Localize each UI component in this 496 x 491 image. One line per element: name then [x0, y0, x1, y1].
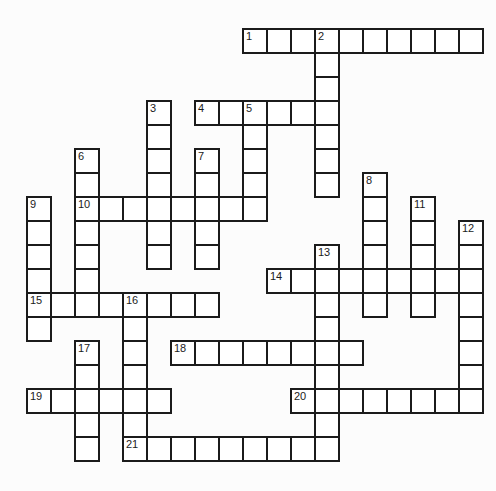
- grid-cell[interactable]: [458, 340, 484, 366]
- grid-cell[interactable]: 4: [194, 100, 220, 126]
- grid-cell[interactable]: [314, 52, 340, 78]
- grid-cell[interactable]: [122, 340, 148, 366]
- grid-cell[interactable]: [410, 268, 436, 294]
- grid-cell[interactable]: [314, 316, 340, 342]
- grid-cell[interactable]: [122, 412, 148, 438]
- grid-cell[interactable]: [218, 100, 244, 126]
- grid-cell[interactable]: [242, 196, 268, 222]
- grid-cell[interactable]: [50, 292, 76, 318]
- grid-cell[interactable]: [410, 292, 436, 318]
- grid-cell[interactable]: [314, 340, 340, 366]
- grid-cell[interactable]: [122, 196, 148, 222]
- grid-cell[interactable]: [458, 244, 484, 270]
- grid-cell[interactable]: 14: [266, 268, 292, 294]
- grid-cell[interactable]: [290, 100, 316, 126]
- grid-cell[interactable]: [146, 220, 172, 246]
- grid-cell[interactable]: 16: [122, 292, 148, 318]
- grid-cell[interactable]: [146, 172, 172, 198]
- grid-cell[interactable]: [74, 388, 100, 414]
- grid-cell[interactable]: [74, 364, 100, 390]
- grid-cell[interactable]: [314, 412, 340, 438]
- grid-cell[interactable]: [122, 388, 148, 414]
- grid-cell[interactable]: [194, 436, 220, 462]
- grid-cell[interactable]: [146, 148, 172, 174]
- grid-cell[interactable]: [362, 28, 388, 54]
- grid-cell[interactable]: 13: [314, 244, 340, 270]
- grid-cell[interactable]: [266, 100, 292, 126]
- grid-cell[interactable]: [314, 100, 340, 126]
- grid-cell[interactable]: [194, 172, 220, 198]
- grid-cell[interactable]: [338, 28, 364, 54]
- grid-cell[interactable]: [26, 268, 52, 294]
- grid-cell[interactable]: [290, 436, 316, 462]
- grid-cell[interactable]: [458, 268, 484, 294]
- grid-cell[interactable]: [146, 124, 172, 150]
- grid-cell[interactable]: [146, 436, 172, 462]
- grid-cell[interactable]: [290, 28, 316, 54]
- grid-cell[interactable]: [146, 244, 172, 270]
- grid-cell[interactable]: [26, 244, 52, 270]
- grid-cell[interactable]: [362, 244, 388, 270]
- grid-cell[interactable]: [194, 196, 220, 222]
- grid-cell[interactable]: [410, 28, 436, 54]
- grid-cell[interactable]: [290, 340, 316, 366]
- grid-cell[interactable]: 21: [122, 436, 148, 462]
- grid-cell[interactable]: [170, 292, 196, 318]
- grid-cell[interactable]: [458, 292, 484, 318]
- grid-cell[interactable]: [314, 172, 340, 198]
- grid-cell[interactable]: [458, 388, 484, 414]
- grid-cell[interactable]: [362, 292, 388, 318]
- grid-cell[interactable]: 1: [242, 28, 268, 54]
- grid-cell[interactable]: [314, 292, 340, 318]
- grid-cell[interactable]: [314, 268, 340, 294]
- grid-cell[interactable]: 7: [194, 148, 220, 174]
- grid-cell[interactable]: [434, 268, 460, 294]
- grid-cell[interactable]: [362, 268, 388, 294]
- grid-cell[interactable]: 19: [26, 388, 52, 414]
- grid-cell[interactable]: [314, 148, 340, 174]
- grid-cell[interactable]: [122, 364, 148, 390]
- grid-cell[interactable]: [266, 28, 292, 54]
- grid-cell[interactable]: [410, 388, 436, 414]
- grid-cell[interactable]: [410, 244, 436, 270]
- grid-cell[interactable]: [122, 316, 148, 342]
- grid-cell[interactable]: [362, 196, 388, 222]
- grid-cell[interactable]: [386, 28, 412, 54]
- grid-cell[interactable]: [74, 412, 100, 438]
- grid-cell[interactable]: 3: [146, 100, 172, 126]
- grid-cell[interactable]: [218, 436, 244, 462]
- grid-cell[interactable]: [74, 244, 100, 270]
- grid-cell[interactable]: 20: [290, 388, 316, 414]
- grid-cell[interactable]: 5: [242, 100, 268, 126]
- grid-cell[interactable]: 10: [74, 196, 100, 222]
- grid-cell[interactable]: [314, 124, 340, 150]
- grid-cell[interactable]: [434, 28, 460, 54]
- grid-cell[interactable]: 2: [314, 28, 340, 54]
- grid-cell[interactable]: [146, 292, 172, 318]
- grid-cell[interactable]: [170, 436, 196, 462]
- grid-cell[interactable]: [74, 172, 100, 198]
- grid-cell[interactable]: 6: [74, 148, 100, 174]
- grid-cell[interactable]: [314, 76, 340, 102]
- grid-cell[interactable]: [242, 340, 268, 366]
- grid-cell[interactable]: [74, 268, 100, 294]
- grid-cell[interactable]: [242, 436, 268, 462]
- grid-cell[interactable]: [146, 196, 172, 222]
- grid-cell[interactable]: [362, 220, 388, 246]
- grid-cell[interactable]: [458, 28, 484, 54]
- grid-cell[interactable]: [146, 388, 172, 414]
- grid-cell[interactable]: [386, 388, 412, 414]
- grid-cell[interactable]: 12: [458, 220, 484, 246]
- grid-cell[interactable]: [314, 388, 340, 414]
- grid-cell[interactable]: [194, 340, 220, 366]
- grid-cell[interactable]: [194, 244, 220, 270]
- grid-cell[interactable]: [362, 388, 388, 414]
- grid-cell[interactable]: [26, 316, 52, 342]
- grid-cell[interactable]: [74, 220, 100, 246]
- grid-cell[interactable]: [218, 340, 244, 366]
- grid-cell[interactable]: [410, 220, 436, 246]
- grid-cell[interactable]: [242, 172, 268, 198]
- grid-cell[interactable]: [314, 364, 340, 390]
- grid-cell[interactable]: 11: [410, 196, 436, 222]
- grid-cell[interactable]: [242, 148, 268, 174]
